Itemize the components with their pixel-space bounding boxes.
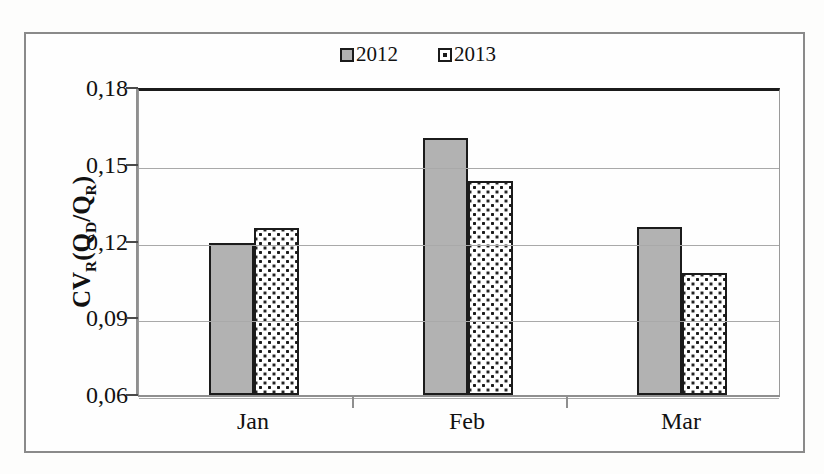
y-axis-tick	[126, 164, 138, 166]
legend-item-2013: 2013	[438, 44, 496, 65]
x-axis-category-separator	[352, 395, 354, 408]
bar-mar-2012	[637, 227, 682, 395]
bar-jan-2013	[254, 228, 299, 395]
plot-area	[138, 88, 780, 395]
x-axis-category-separator	[566, 395, 568, 408]
x-axis-label-jan: Jan	[237, 408, 269, 435]
legend-item-2012: 2012	[340, 44, 398, 65]
y-axis-tick-labels: 0,060,090,120,150,18	[0, 0, 128, 474]
y-axis-tick-label: 0,18	[86, 75, 128, 102]
gridline	[139, 245, 779, 246]
x-axis-line	[138, 395, 780, 397]
y-axis-tick-label: 0,09	[86, 305, 128, 332]
y-axis-tick-label: 0,15	[86, 151, 128, 178]
gridline	[139, 168, 779, 169]
x-axis-label-mar: Mar	[661, 408, 701, 435]
y-axis-tick	[126, 87, 138, 89]
y-axis-tick	[126, 317, 138, 319]
gridline	[139, 321, 779, 322]
legend-label-2012: 2012	[356, 44, 398, 65]
y-axis-tick-label: 0,12	[86, 228, 128, 255]
bar-jan-2012	[209, 243, 254, 395]
solid-gray-square-icon	[340, 48, 354, 62]
gridline	[139, 398, 779, 399]
x-axis-label-feb: Feb	[449, 408, 485, 435]
bar-feb-2012	[423, 138, 468, 395]
y-axis-tick	[126, 241, 138, 243]
chart-legend: 2012 2013	[340, 44, 496, 65]
bar-feb-2013	[468, 181, 513, 395]
bar-group-container	[139, 91, 779, 395]
legend-label-2013: 2013	[454, 44, 496, 65]
y-axis-tick-label: 0,06	[86, 382, 128, 409]
y-axis-tick	[126, 394, 138, 396]
bar-mar-2013	[682, 273, 727, 395]
dotted-square-icon	[438, 48, 452, 62]
